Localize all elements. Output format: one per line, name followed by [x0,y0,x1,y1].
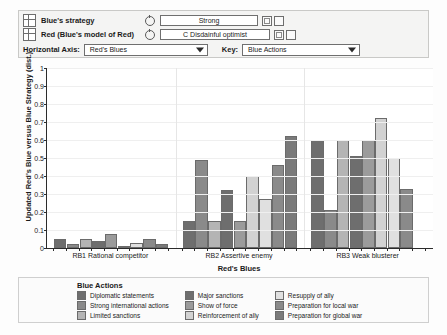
x-tick-mark [168,248,169,251]
legend-item-label: Strong international actions [90,302,169,309]
y-tick-mark [44,230,47,231]
legend-swatch-icon [275,311,284,320]
y-tick-label: 0.5 [34,155,44,162]
y-tick-label: 1 [40,65,44,72]
grid-icon [23,28,36,41]
y-tick-mark [44,194,47,195]
x-tick-mark [349,248,350,251]
x-tick-mark [425,248,426,251]
legend-column: Major sanctionsShow of forceReinforcemen… [185,291,259,320]
legend-swatch-icon [185,301,194,310]
x-tick-mark [66,248,67,251]
x-tick-mark [194,248,195,251]
spinner-icon[interactable] [145,30,155,40]
blue-strategy-actions [262,16,284,26]
gridline [47,230,433,231]
y-tick-mark [44,212,47,213]
legend-item[interactable]: Strong international actions [77,301,169,310]
x-tick-mark [129,248,130,251]
chevron-down-icon [348,47,356,52]
x-tick-mark [207,248,208,251]
red-model-label: Red (Blue's model of Red) [41,30,145,39]
x-tick-mark [258,248,259,251]
horizontal-axis-select[interactable]: Red's Blues [84,44,208,56]
bar [272,165,284,248]
x-tick-mark [142,248,143,251]
bar [285,136,297,248]
bar [105,234,117,248]
y-tick-mark [44,104,47,105]
control-panel: Blue's strategy Strong Red (Blue's model… [18,10,429,58]
bar [388,158,400,248]
blue-strategy-label: Blue's strategy [41,16,145,25]
legend-item-label: Reinforcement of ally [198,312,259,319]
legend-columns: Diplomatic statementsStrong internationa… [77,291,362,320]
legend: Blue Actions Diplomatic statementsStrong… [18,277,429,323]
legend-item-label: Diplomatic statements [90,292,154,299]
red-model-actions [274,30,296,40]
x-axis-category-label: RB2 Assertive enemy [206,252,273,259]
legend-swatch-icon [185,291,194,300]
chart-icon[interactable] [274,16,284,26]
y-tick-mark [44,140,47,141]
legend-swatch-icon [77,291,86,300]
gridline [47,176,433,177]
legend-swatch-icon [77,301,86,310]
bar [143,239,155,248]
x-tick-mark [220,248,221,251]
x-tick-mark [374,248,375,251]
chart-icon[interactable] [286,30,296,40]
x-tick-mark [336,248,337,251]
y-tick-mark [44,68,47,69]
x-tick-mark [245,248,246,251]
legend-column: Diplomatic statementsStrong internationa… [77,291,169,320]
y-tick-label: 0.4 [34,173,44,180]
key-select[interactable]: Blue Actions [242,44,360,56]
bar [54,239,66,248]
x-tick-mark [284,248,285,251]
gridline [47,68,433,69]
legend-item[interactable]: Preparation for global war [275,311,362,320]
horizontal-axis-value: Red's Blues [85,46,127,53]
x-axis-category-labels: RB1 Rational competitorRB2 Assertive ene… [46,252,432,264]
key-label: Key: [222,45,238,54]
bar [400,189,412,248]
x-tick-mark [233,248,234,251]
legend-item[interactable]: Resupply of ally [275,291,362,300]
y-tick-label: 0.8 [34,101,44,108]
x-tick-mark [310,248,311,251]
bar [350,156,362,248]
y-tick-label: 0.1 [34,227,44,234]
bar [183,221,195,248]
y-tick-label: 0.7 [34,119,44,126]
x-tick-mark [155,248,156,251]
y-tick-mark [44,122,47,123]
y-tick-label: 0.6 [34,137,44,144]
legend-item-label: Limited sanctions [90,312,140,319]
legend-item[interactable]: Limited sanctions [77,311,169,320]
legend-item[interactable]: Major sanctions [185,291,259,300]
blue-strategy-row: Blue's strategy Strong [23,14,284,27]
bar [375,118,387,248]
x-tick-mark [361,248,362,251]
legend-item[interactable]: Diplomatic statements [77,291,169,300]
red-model-input[interactable]: C Disdainful optimist [160,29,270,40]
legend-title: Blue Actions [77,281,123,290]
spinner-icon[interactable] [145,16,155,26]
legend-item[interactable]: Show of force [185,301,259,310]
bar [80,239,92,248]
axis-key-row: Horizontal Axis: Red's Blues Key: Blue A… [23,43,360,56]
copy-icon[interactable] [262,16,272,26]
bar [195,160,207,248]
group-separator [176,68,177,248]
x-tick-mark [79,248,80,251]
copy-icon[interactable] [274,30,284,40]
blue-strategy-input[interactable]: Strong [160,15,258,26]
legend-item[interactable]: Preparation for local war [275,301,362,310]
x-tick-mark [323,248,324,251]
x-tick-mark [91,248,92,251]
legend-column: Resupply of allyPreparation for local wa… [275,291,362,320]
legend-item[interactable]: Reinforcement of ally [185,311,259,320]
gridline [47,194,433,195]
y-axis-title: Updated Red's Blue versus Blue Strategy … [24,47,33,227]
